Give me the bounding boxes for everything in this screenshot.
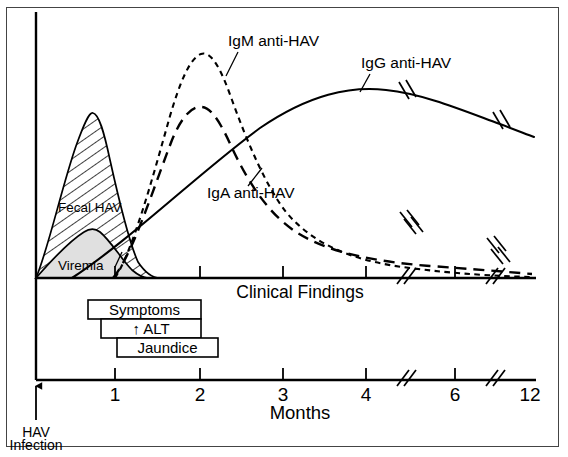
x-tick-label-2: 2: [195, 384, 206, 405]
clinical-findings-label: Clinical Findings: [236, 282, 364, 302]
x-axis-ticks: [115, 368, 455, 380]
hav-serology-chart: 1 2 3 4 6 12 Months HAV Infection Clinic…: [0, 0, 568, 457]
viremia-label: Viremia: [58, 258, 104, 273]
igg-anti-hav-label: IgG anti-HAV: [361, 54, 452, 71]
x-tick-label-1: 1: [110, 384, 121, 405]
x-tick-label-6: 6: [450, 384, 461, 405]
jaundice-box-group: Jaundice: [117, 338, 218, 357]
symptoms-box-label: Symptoms: [109, 301, 180, 318]
alt-box-group: ↑ ALT: [101, 319, 201, 338]
igm-leader-line: [226, 52, 238, 76]
iga-anti-hav-curve: [113, 107, 532, 278]
x-tick-label-4: 4: [361, 384, 372, 405]
iga-anti-hav-label: IgA anti-HAV: [207, 184, 295, 201]
x-tick-label-12: 12: [519, 384, 540, 405]
igm-anti-hav-label: IgM anti-HAV: [228, 32, 320, 49]
x-axis-title: Months: [270, 402, 331, 423]
curves-group: [36, 54, 534, 278]
symptoms-box-group: Symptoms: [88, 300, 201, 319]
alt-box-label: ↑ ALT: [132, 320, 169, 337]
hav-infection-label-line2: Infection: [10, 437, 63, 453]
jaundice-box-label: Jaundice: [137, 339, 197, 356]
igg-anti-hav-curve: [72, 89, 534, 278]
upper-axis-ticks: [115, 266, 455, 278]
fecal-hav-label: Fecal HAV: [58, 200, 122, 215]
figure-canvas: 1 2 3 4 6 12 Months HAV Infection Clinic…: [0, 0, 568, 457]
